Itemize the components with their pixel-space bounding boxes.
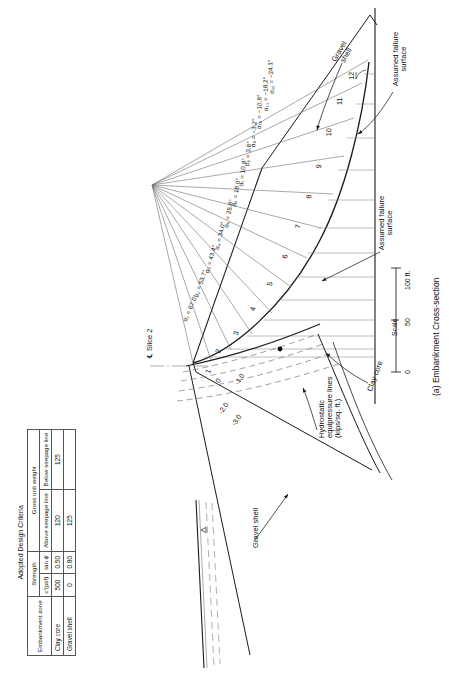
criteria-row1-cohesion: 0 — [64, 573, 76, 597]
assumed-failure-arc — [193, 62, 369, 363]
criteria-header-tanphi: tan ϕʹ — [40, 551, 52, 573]
criteria-header-above: Above seepage line — [40, 490, 52, 551]
slice-number-10: 10 — [325, 128, 333, 136]
criteria-header-zone: Embankment zone — [28, 597, 52, 656]
figure-page: α₁ = 67.0° α₂ = 53.7° α₃ = 43.4° α₄ = 34… — [0, 0, 449, 673]
adopted-design-criteria-table: Adopted Design Criteria Embankment zone … — [14, 418, 106, 656]
criteria-header-cohesion: cʹ(psf) — [40, 573, 52, 597]
criteria-row0-zone: Clay core — [52, 597, 64, 656]
criteria-row0-below: 125 — [52, 429, 64, 490]
criteria-row1-tanphi: 0.80 — [64, 551, 76, 573]
criteria-row0-cohesion: 500 — [52, 573, 64, 597]
scale-tick-50: 50 — [404, 318, 411, 326]
slice-number-9: 9 — [315, 164, 323, 169]
table-row: Gravel shell 0 0.80 125 — [64, 429, 76, 655]
scale-label: Scale — [391, 318, 398, 336]
angle-12-marker — [356, 70, 366, 79]
slice-centerline-label: ℄ Slice 2 — [146, 329, 154, 358]
figure-caption: (a) Embankment Cross-section — [432, 278, 441, 396]
scale-tick-0: 0 — [404, 370, 411, 374]
core-trench-lines — [196, 500, 220, 668]
embankment-outline — [189, 15, 377, 655]
assumed-failure-surface-label-bottom: Assumed failure surface — [378, 190, 394, 256]
slice-number-12: 12 — [348, 72, 356, 80]
criteria-row1-zone: Gravel shell — [64, 597, 76, 656]
criteria-row1-above: 125 — [64, 490, 76, 551]
criteria-row1-below — [64, 429, 76, 490]
scale-tick-100: 100 ft. — [404, 271, 411, 290]
criteria-header-below: Below seepage line — [40, 429, 52, 490]
slice-number-7: 7 — [294, 224, 302, 229]
criteria-row0-above: 120 — [52, 490, 64, 551]
slice-number-8: 8 — [305, 194, 313, 199]
criteria-title: Adopted Design Criteria — [14, 429, 28, 655]
table-row: Clay core 500 0.50 120 125 — [52, 429, 64, 655]
assumed-failure-surface-label-top: Assumed failure surface — [392, 24, 408, 94]
slice-number-11: 11 — [336, 98, 344, 105]
hydrostatic-equipressure-label: Hydrostatic equipressure lines (kips/sq.… — [318, 366, 342, 438]
criteria-group-unit-weight: Gross unit weight — [28, 429, 40, 551]
gravel-shell-label-bottom: Gravel shell — [252, 508, 260, 548]
criteria-group-strength: Strength — [28, 551, 40, 597]
hydrostatic-equipressure-lines — [177, 334, 339, 401]
criteria-row0-tanphi: 0.50 — [52, 551, 64, 573]
